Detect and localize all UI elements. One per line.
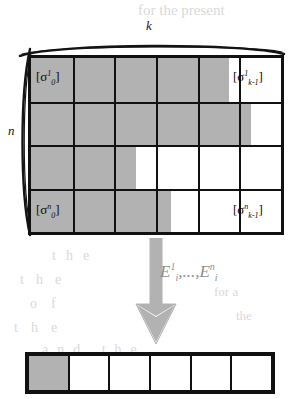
bleed-text-8: for a xyxy=(214,284,238,300)
result-cell xyxy=(232,356,271,390)
result-cell xyxy=(70,356,111,390)
result-cell xyxy=(192,356,233,390)
cell-label-bottom-left: [σn0] xyxy=(36,203,60,216)
column-rule xyxy=(198,58,200,232)
axis-label-k: k xyxy=(146,18,152,34)
column-rule xyxy=(156,58,158,232)
cell-label-top-right: [σ1k-1] xyxy=(233,70,263,83)
bleed-text-1: for the present xyxy=(138,2,225,19)
bleed-text-4: of xyxy=(30,296,70,312)
bleed-text-9: the xyxy=(236,308,252,324)
axis-label-n: n xyxy=(8,123,15,139)
bleed-text-2: the xyxy=(52,248,99,264)
row-fill xyxy=(31,147,136,189)
result-cell xyxy=(29,356,70,390)
down-arrow-icon xyxy=(132,238,180,346)
column-rule xyxy=(73,58,75,232)
result-cell xyxy=(110,356,151,390)
cell-label-top-left: [σ10] xyxy=(36,70,60,83)
row-fill xyxy=(31,104,251,146)
figure-matrix-reduction: for the present the the of the and the l… xyxy=(0,0,297,399)
bleed-text-5: the xyxy=(14,320,70,336)
column-rule xyxy=(114,58,116,232)
result-strip xyxy=(25,352,275,394)
result-cell xyxy=(151,356,192,390)
arrow-label-evaluations: E1i,...,Eni xyxy=(160,262,218,282)
cell-label-bottom-right: [σnk-1] xyxy=(233,203,263,216)
bleed-text-3: the xyxy=(20,272,73,288)
